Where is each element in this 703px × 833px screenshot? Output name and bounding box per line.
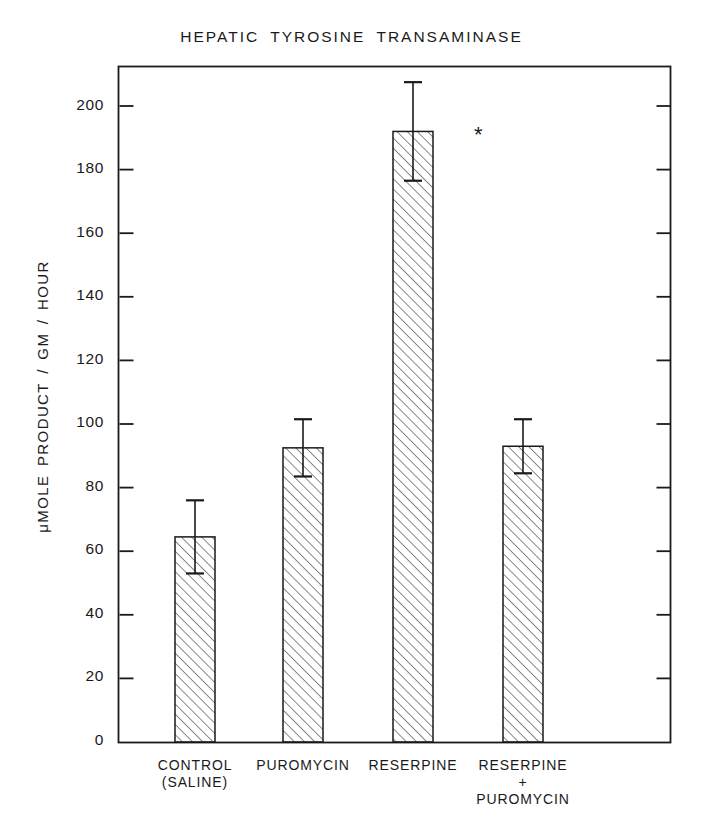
significance-asterisk: * xyxy=(474,124,483,146)
bar-group xyxy=(283,419,323,742)
x-tick-label-puromycin: PUROMYCIN xyxy=(243,757,363,774)
bar xyxy=(503,446,543,742)
bar-group xyxy=(175,500,215,742)
bar xyxy=(393,131,433,742)
plot-area xyxy=(0,0,703,833)
bar xyxy=(283,448,323,742)
x-tick-label-reserpine-puromycin: RESERPINE + PUROMYCIN xyxy=(463,757,583,808)
x-tick-label-reserpine: RESERPINE xyxy=(353,757,473,774)
bar-group xyxy=(503,419,543,742)
bar-group xyxy=(393,82,433,742)
figure-container: HEPATIC TYROSINE TRANSAMINASE μMOLE PROD… xyxy=(0,0,703,833)
bar-series xyxy=(175,82,543,742)
x-tick-label-control: CONTROL (SALINE) xyxy=(135,757,255,791)
